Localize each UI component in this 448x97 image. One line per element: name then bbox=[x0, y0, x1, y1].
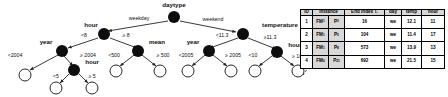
cell-hour: 17 bbox=[422, 29, 445, 42]
edge-label-hour-lt: <8 bbox=[81, 32, 87, 38]
cell-day: we bbox=[385, 42, 402, 55]
instance-p: P8 bbox=[329, 42, 344, 54]
node-hour-left-deep[interactable] bbox=[68, 64, 80, 76]
instance-fm: FM1 bbox=[313, 42, 329, 54]
leaf-nodes bbox=[19, 65, 304, 94]
edge-label-yearright-ge: ≥ 2005 bbox=[225, 52, 241, 58]
edge-label-mean-lt: <500 bbox=[108, 52, 120, 58]
edge-root-weekend bbox=[180, 21, 236, 32]
cell-temp: 11.4 bbox=[402, 29, 422, 42]
instance-fm: FM6 bbox=[313, 56, 329, 68]
cell-id: 3 bbox=[301, 42, 313, 55]
edge-hourleft-ge bbox=[110, 38, 137, 48]
edge-label-hour-ge: ≥ 8 bbox=[122, 32, 129, 38]
label-temperature: temperature bbox=[262, 21, 298, 28]
cell-end-index: 104 bbox=[345, 29, 385, 42]
edge-label-weekend: weekend bbox=[203, 16, 224, 22]
label-year-right: year bbox=[187, 38, 200, 45]
leaf-mean-ge[interactable] bbox=[154, 65, 166, 77]
node-mean[interactable] bbox=[132, 45, 144, 57]
cell-temp: 21.5 bbox=[402, 55, 422, 68]
edge-label-year-ge: ≥ 2004 bbox=[80, 52, 96, 58]
edge-label-mean-ge: ≥ 500 bbox=[157, 52, 170, 58]
cell-end-index: 573 bbox=[345, 42, 385, 55]
cell-hour: 15 bbox=[422, 55, 445, 68]
cell-instance: FM1 P5 bbox=[313, 29, 345, 42]
leaf-year-right-ge[interactable] bbox=[225, 65, 237, 77]
label-hour-left: hour bbox=[84, 21, 98, 28]
table-row[interactable]: 2 FM1 P5 104 we 11.4 17 bbox=[301, 29, 445, 42]
instance-fm: FM1 bbox=[313, 16, 329, 28]
node-temperature[interactable] bbox=[237, 28, 249, 40]
edge-label-hourdeep-ge: ≥ 5 bbox=[88, 73, 95, 79]
edge-label-year-lt: <2004 bbox=[8, 52, 23, 58]
edge-label-hourright-lt: <10 bbox=[249, 52, 258, 58]
cell-id: 4 bbox=[301, 55, 313, 68]
leaf-year-right-lt[interactable] bbox=[182, 65, 194, 77]
edge-hourdeep-lt bbox=[60, 74, 69, 83]
cell-id: 1 bbox=[301, 15, 313, 28]
edge-hourdeep-ge bbox=[79, 74, 88, 83]
leaf-hour-right-lt[interactable] bbox=[249, 65, 261, 77]
cell-end-index: 16 bbox=[345, 15, 385, 28]
table-row[interactable]: 4 FM6 P21 692 we 21.5 15 bbox=[301, 55, 445, 68]
instance-p: P21 bbox=[329, 56, 344, 68]
cell-instance: FM1 P3 bbox=[313, 15, 345, 28]
cell-hour: 13 bbox=[422, 42, 445, 55]
node-hour-left[interactable] bbox=[98, 28, 110, 40]
table-row[interactable]: 1 FM1 P3 16 we 12.1 11 bbox=[301, 15, 445, 28]
edge-label-temp-lt: <11.3 bbox=[216, 32, 229, 38]
leaf-year-left-lt[interactable] bbox=[19, 69, 31, 81]
cell-id: 2 bbox=[301, 29, 313, 42]
instance-p: P5 bbox=[329, 29, 344, 41]
edge-label-yearright-lt: <2005 bbox=[179, 52, 194, 58]
edge-root-weekday bbox=[108, 21, 168, 31]
edge-label-temp-ge: ≥11.3 bbox=[264, 34, 277, 40]
edge-hourleft-lt bbox=[68, 38, 98, 48]
edge-mean-lt bbox=[120, 55, 134, 66]
cell-temp: 13.9 bbox=[402, 42, 422, 55]
instance-table: ID Instance End Index T. day temp hour 1… bbox=[300, 9, 445, 69]
cell-day: we bbox=[385, 29, 402, 42]
cell-day: we bbox=[385, 15, 402, 28]
cell-instance: FM6 P21 bbox=[313, 55, 345, 68]
node-labels: daytype hour year hour mean temperature … bbox=[40, 1, 303, 65]
instance-fm: FM1 bbox=[313, 29, 329, 41]
instance-table-wrapper: ID Instance End Index T. day temp hour 1… bbox=[300, 9, 444, 69]
instance-p: P3 bbox=[329, 16, 344, 28]
table-row[interactable]: 3 FM1 P8 573 we 13.9 13 bbox=[301, 42, 445, 55]
cell-day: we bbox=[385, 55, 402, 68]
edge-mean-ge bbox=[142, 55, 156, 66]
node-hour-right[interactable] bbox=[271, 46, 283, 58]
label-hour-left-deep: hour bbox=[85, 58, 99, 65]
cell-instance: FM1 P8 bbox=[313, 42, 345, 55]
label-year-left: year bbox=[40, 38, 53, 45]
label-mean: mean bbox=[149, 38, 165, 45]
cell-hour: 11 bbox=[422, 15, 445, 28]
figure-root: daytype hour year hour mean temperature … bbox=[0, 0, 448, 97]
label-daytype: daytype bbox=[162, 1, 186, 8]
leaf-hour-deep-ge[interactable] bbox=[86, 82, 98, 94]
node-year-left[interactable] bbox=[56, 45, 68, 57]
cell-temp: 12.1 bbox=[402, 15, 422, 28]
edge-temp-lt bbox=[210, 38, 238, 48]
node-year-right[interactable] bbox=[203, 45, 215, 57]
node-daytype[interactable] bbox=[168, 11, 180, 23]
cell-end-index: 692 bbox=[345, 55, 385, 68]
edge-label-weekday: weekday bbox=[129, 15, 150, 21]
edge-yearleft-lt bbox=[30, 55, 58, 70]
leaf-mean-lt[interactable] bbox=[110, 65, 122, 77]
edge-yearright-lt bbox=[192, 55, 205, 66]
leaf-hour-deep-lt[interactable] bbox=[50, 82, 62, 94]
edge-hourright-lt bbox=[259, 56, 272, 66]
edge-label-hourdeep-lt: <5 bbox=[53, 73, 59, 79]
